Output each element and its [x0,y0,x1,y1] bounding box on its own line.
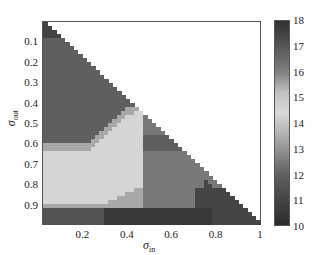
colorbar-tick-label: 13 [293,144,304,155]
y-tick-label: 0.4 [12,98,38,109]
heatmap-cell [256,220,261,225]
y-axis-label: σout [4,110,20,126]
y-tick-label: 0.7 [12,159,38,170]
x-axis-label: σin [143,238,155,254]
colorbar-tick-label: 17 [293,41,304,52]
x-tick-label: 1 [245,228,275,240]
colorbar-tick-label: 14 [293,118,304,129]
x-tick-label: 0.8 [201,228,231,240]
x-tick-label: 0.4 [112,228,142,240]
y-tick-label: 0.8 [12,179,38,190]
y-tick-label: 0.9 [12,200,38,211]
x-tick-label: 0.2 [67,228,97,240]
y-tick-label: 0.3 [12,77,38,88]
colorbar-tick-label: 15 [293,92,304,103]
y-tick-label: 0.2 [12,57,38,68]
x-tick-label: 0.6 [156,228,186,240]
colorbar [274,20,290,226]
heatmap-cells [43,22,260,224]
colorbar-tick-label: 18 [293,15,304,26]
y-tick-label: 0.1 [12,36,38,47]
colorbar-tick-label: 10 [293,221,304,232]
y-tick-label: 0.6 [12,138,38,149]
colorbar-tick-label: 11 [293,195,304,206]
colorbar-tick-label: 16 [293,67,304,78]
heatmap-plot-area [42,21,261,225]
colorbar-tick-label: 12 [293,170,304,181]
